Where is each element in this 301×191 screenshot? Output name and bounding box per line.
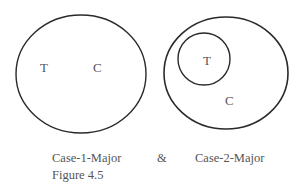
figure-label: Figure 4.5 — [52, 169, 103, 182]
case1-caption: Case-1-Major — [52, 152, 121, 165]
case2-c-label: C — [225, 94, 234, 107]
case1-t-label: T — [40, 61, 48, 74]
case2-t-label: T — [203, 54, 211, 67]
ampersand: & — [157, 152, 167, 165]
case1-outer-ellipse — [16, 15, 146, 133]
case1-c-label: C — [93, 61, 102, 74]
case2-caption: Case-2-Major — [195, 152, 264, 165]
